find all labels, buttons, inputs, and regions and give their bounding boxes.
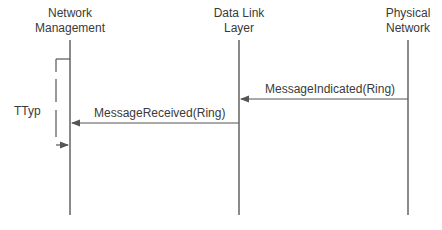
timer-label: TTyp <box>14 104 41 118</box>
message-label-indicated: MessageIndicated(Ring) <box>265 82 385 96</box>
timer-bracket-icon <box>56 59 70 145</box>
message-label-received: MessageReceived(Ring) <box>94 106 214 120</box>
